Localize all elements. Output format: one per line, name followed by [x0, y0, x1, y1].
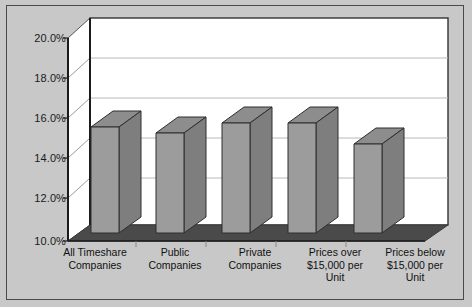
bar-front-face — [288, 123, 316, 233]
y-tick-label-12: 12.0% — [4, 193, 66, 204]
x-category-label-1: Public Companies — [135, 246, 215, 271]
x-category-line: Prices below — [376, 246, 454, 259]
x-category-line: Unit — [376, 271, 454, 284]
bar-front-face — [91, 127, 119, 233]
bar-all-timeshare-companies — [91, 111, 141, 233]
bar-front-face — [222, 123, 250, 233]
x-category-line: Prices over — [296, 246, 374, 259]
y-tick-label-18: 18.0% — [4, 73, 66, 84]
bar-prices-over-15000 — [288, 107, 338, 233]
x-category-line: Public — [136, 246, 214, 259]
bar-front-face — [156, 133, 184, 233]
chart-container: 20.0% 18.0% 16.0% 14.0% 12.0% 10.0% All … — [0, 0, 472, 307]
bar-side-face — [184, 117, 206, 233]
x-category-label-4: Prices below $15,000 per Unit — [375, 246, 455, 284]
bar-side-face — [382, 128, 404, 233]
bar-side-face — [119, 111, 141, 233]
bar-front-face — [354, 144, 382, 233]
x-category-line: $15,000 per — [296, 259, 374, 272]
x-category-line: $15,000 per — [376, 259, 454, 272]
y-tick-label-14: 14.0% — [4, 153, 66, 164]
bar-side-face — [250, 107, 272, 233]
x-category-line: Companies — [136, 259, 214, 272]
x-axis-labels: All Timeshare Companies Public Companies… — [55, 246, 455, 301]
x-category-line: Private — [216, 246, 294, 259]
x-category-label-0: All Timeshare Companies — [55, 246, 135, 271]
bar-private-companies — [222, 107, 272, 233]
bar-side-face — [316, 107, 338, 233]
y-tick-label-20: 20.0% — [4, 33, 66, 44]
plot-side-wall — [68, 18, 90, 241]
x-category-label-3: Prices over $15,000 per Unit — [295, 246, 375, 284]
bar-public-companies — [156, 117, 206, 233]
x-category-line: Companies — [56, 259, 134, 272]
x-category-line: All Timeshare — [56, 246, 134, 259]
x-category-label-2: Private Companies — [215, 246, 295, 271]
x-category-line: Companies — [216, 259, 294, 272]
y-tick-label-16: 16.0% — [4, 113, 66, 124]
bar-prices-below-15000 — [354, 128, 404, 233]
x-category-line: Unit — [296, 271, 374, 284]
